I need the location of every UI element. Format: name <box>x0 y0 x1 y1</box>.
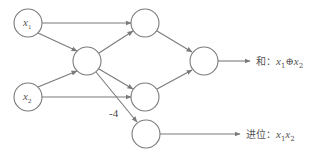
carry-node <box>132 120 160 148</box>
edges <box>38 23 250 134</box>
edge-x2-h <box>38 71 77 87</box>
weight-label: -4 <box>109 107 119 119</box>
edge-h-m2 <box>99 69 133 89</box>
hidden-node <box>73 47 101 75</box>
carry-output-label: 进位：x1x2 <box>246 128 295 143</box>
middle-node-top <box>131 9 159 37</box>
neural-network-diagram: x1 x2 -4 和：x1⊕x2 进位：x1x2 <box>0 0 314 161</box>
edge-x1-h <box>38 33 77 51</box>
middle-node-bottom <box>131 83 159 111</box>
edge-m2-o <box>157 70 192 89</box>
sum-output-node <box>190 47 218 75</box>
edge-m1-o <box>157 31 192 52</box>
edge-h-m1 <box>99 31 133 53</box>
sum-output-label: 和：x1⊕x2 <box>256 55 303 70</box>
